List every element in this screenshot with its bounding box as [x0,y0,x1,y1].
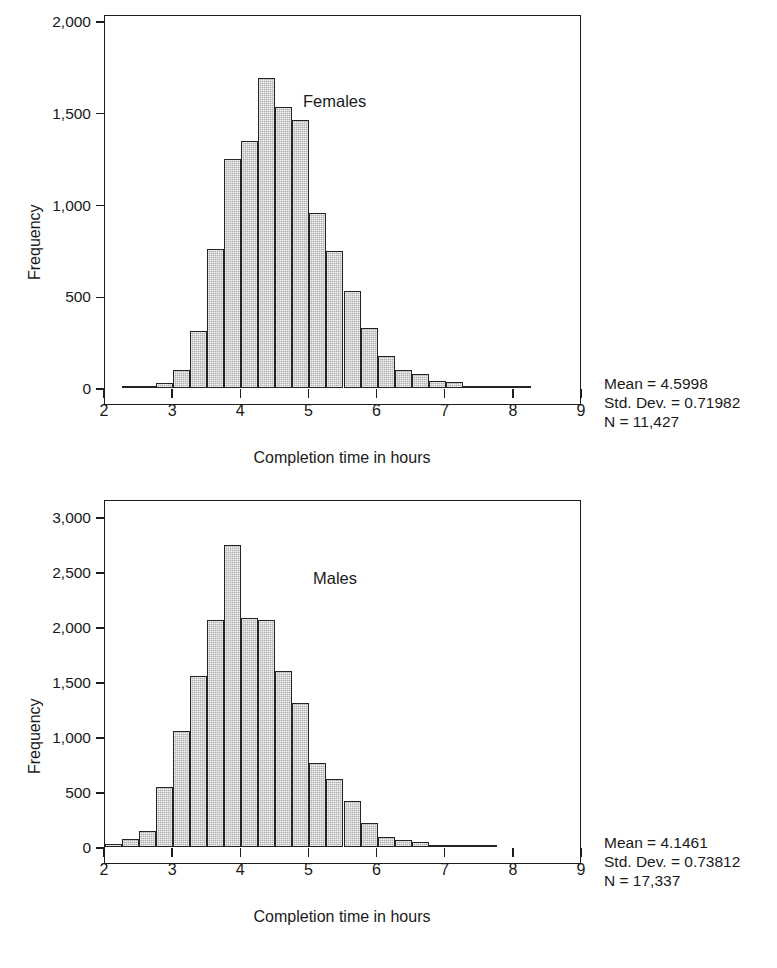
y-tick-label: 3,000 [52,510,91,526]
histogram-bar [105,844,122,847]
x-tick-mark [171,848,172,857]
histogram-bar [480,386,497,388]
y-tick-label: 2,500 [52,565,91,581]
histogram-bar [395,840,412,847]
x-tick-mark [308,389,309,398]
y-tick-mark [96,792,105,793]
y-tick-label: 0 [82,840,91,856]
x-tick-mark [240,389,241,398]
histogram-bar [224,159,241,388]
x-tick-label: 9 [577,403,586,419]
x-tick-label: 2 [100,403,109,419]
histogram-bar [412,374,429,388]
x-tick-mark [103,389,104,398]
plot-area-males [104,500,581,864]
histogram-bar [378,837,395,847]
series-annotation-females: Females [303,92,366,111]
histogram-bar [224,545,241,847]
stat-mean-females: Mean = 4.5998 [604,374,740,393]
y-axis-title-males: Frequency [26,698,44,774]
histogram-bar [292,703,309,847]
histogram-bar [446,845,463,847]
histogram-bars-females [105,16,580,404]
x-tick-label: 8 [508,403,517,419]
histogram-bar [514,386,531,388]
x-tick-label: 2 [100,862,109,878]
x-axis-title-males: Completion time in hours [254,908,431,926]
x-tick-mark [376,848,377,857]
y-tick-mark [96,297,105,298]
histogram-bar [429,845,446,847]
y-tick-mark [96,737,105,738]
y-axis-title-females: Frequency [26,204,44,280]
x-tick-mark [512,389,513,398]
x-tick-mark [444,848,445,857]
histogram-bar [275,671,292,847]
histogram-bar [275,107,292,388]
histogram-bar [378,356,395,388]
histogram-bar [292,120,309,388]
x-tick-label: 6 [372,403,381,419]
x-tick-label: 3 [168,403,177,419]
histogram-bar [190,331,207,388]
x-tick-label: 4 [236,862,245,878]
stat-stddev-males: Std. Dev. = 0.73812 [604,852,740,871]
y-tick-mark [96,682,105,683]
histogram-bar [241,141,258,388]
histogram-bar [480,845,497,847]
y-tick-mark [96,21,105,22]
x-tick-label: 7 [440,862,449,878]
x-tick-label: 6 [372,862,381,878]
histogram-bar [122,839,139,847]
stat-n-males: N = 17,337 [604,871,740,890]
histogram-bar [258,78,275,388]
chart-panel-females: Frequency 05001,0001,5002,000 23456789 F… [0,0,777,484]
histogram-bar [207,249,224,388]
x-tick-label: 4 [236,403,245,419]
histogram-bar [173,731,190,847]
y-tick-label: 0 [82,381,91,397]
y-tick-label: 1,000 [52,198,91,214]
histogram-bar [361,328,378,388]
y-tick-label: 500 [65,290,91,306]
y-tick-label: 2,000 [52,620,91,636]
histogram-bar [139,386,156,388]
histogram-bar [241,618,258,847]
stat-n-females: N = 11,427 [604,412,740,431]
histogram-bar [156,787,173,847]
y-tick-label: 1,500 [52,106,91,122]
histogram-bar [122,386,139,388]
x-tick-mark [580,848,581,857]
y-tick-label: 2,000 [52,14,91,30]
histogram-bar [429,381,446,388]
histogram-bar [309,213,326,388]
y-tick-label: 500 [65,785,91,801]
x-tick-label: 3 [168,862,177,878]
histogram-bar [463,845,480,847]
stats-block-males: Mean = 4.1461 Std. Dev. = 0.73812 N = 17… [604,833,740,890]
x-tick-mark [171,389,172,398]
y-tick-mark [96,627,105,628]
stat-stddev-females: Std. Dev. = 0.71982 [604,393,740,412]
histogram-bar [361,823,378,847]
histogram-bar [326,251,343,388]
plot-area-females [104,15,581,405]
x-tick-mark [308,848,309,857]
chart-panel-males: Frequency 05001,0001,5002,0002,5003,000 … [0,484,777,968]
histogram-bar [412,842,429,847]
y-tick-mark [96,572,105,573]
x-tick-mark [376,389,377,398]
histogram-bar [156,383,173,389]
y-tick-label: 1,500 [52,675,91,691]
y-tick-mark [96,113,105,114]
x-tick-label: 5 [304,862,313,878]
histogram-bar [463,386,480,388]
histogram-bar [190,676,207,847]
x-tick-mark [240,848,241,857]
histogram-bar [258,620,275,847]
histogram-bar [309,763,326,847]
x-tick-label: 5 [304,403,313,419]
stat-mean-males: Mean = 4.1461 [604,833,740,852]
histogram-bar [497,386,514,388]
histogram-bar [139,831,156,848]
